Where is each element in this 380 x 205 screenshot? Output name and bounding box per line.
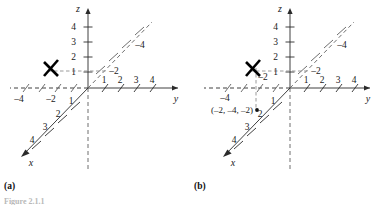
z-axis-arrowhead <box>287 8 292 14</box>
x-axis-arrowhead <box>223 149 232 157</box>
y-tick-label-2: 2 <box>320 75 325 85</box>
y-tick-neg-2 <box>55 84 61 92</box>
x-tick-label-2: 2 <box>258 109 263 119</box>
x-tick-label-1: 1 <box>271 96 276 106</box>
z-tick-label-4: 4 <box>273 22 278 32</box>
x-tick-label-4: 4 <box>30 135 35 145</box>
panel-b-caption: (b) <box>194 181 206 191</box>
z-axis-label: z <box>75 3 80 14</box>
z-tick-label-2: 2 <box>273 52 278 62</box>
y-axis-label: y <box>173 93 179 104</box>
z-tick-label-1: 1 <box>71 67 76 77</box>
x-tick-label-neg-2: –2 <box>310 66 321 76</box>
y-tick-label-neg-2: –2 <box>45 94 56 104</box>
x-tick-neg-1 <box>298 66 307 74</box>
y-tick-label-neg-2: –2 <box>257 72 268 82</box>
z-tick-label-1: 1 <box>273 67 278 77</box>
panel-b-axes-svg: 4 3 2 1 z 1 2 3 4 –2 –4 y 1 2 3 4 –2 –4 … <box>190 0 380 180</box>
y-tick-label-neg-4: –4 <box>219 93 230 103</box>
y-tick-label-2: 2 <box>118 75 123 85</box>
x-tick-neg-2 <box>311 53 320 61</box>
x-tick-neg-3 <box>122 40 131 48</box>
x-tick-neg-1 <box>96 66 105 74</box>
point-coordinate-label: (–2, –4, –2) <box>211 105 253 115</box>
y-tick-label-4: 4 <box>352 75 357 85</box>
figure-2-1-1: 4 3 2 1 z 1 2 3 4 –2 –4 y 1 2 3 4 –2 –4 … <box>0 0 380 205</box>
y-tick-label-3: 3 <box>336 75 341 85</box>
z-axis-arrowhead <box>85 8 90 14</box>
y-axis-label: y <box>365 93 371 104</box>
z-tick-label-4: 4 <box>71 22 76 32</box>
panel-b-coordinate-system: 4 3 2 1 z 1 2 3 4 –2 –4 y 1 2 3 4 –2 –4 … <box>190 0 380 180</box>
y-tick-label-1: 1 <box>304 75 309 85</box>
panel-a-axes-svg: 4 3 2 1 z 1 2 3 4 –2 –4 y 1 2 3 4 –2 –4 … <box>0 0 190 180</box>
x-tick-neg-3 <box>324 40 333 48</box>
x-tick-label-2: 2 <box>56 109 61 119</box>
y-tick-neg-2 <box>257 84 263 92</box>
y-tick-label-3: 3 <box>134 75 139 85</box>
x-tick-label-3: 3 <box>43 122 48 132</box>
x-tick-label-neg-4: –4 <box>134 40 145 50</box>
bold-x-mark <box>44 60 58 76</box>
z-tick-label-3: 3 <box>71 37 76 47</box>
y-axis-arrowhead <box>172 85 178 90</box>
x-tick-label-neg-4: –4 <box>336 40 347 50</box>
x-tick-label-1: 1 <box>69 96 74 106</box>
panel-a-caption: (a) <box>4 181 15 191</box>
panel-a-coordinate-system: 4 3 2 1 z 1 2 3 4 –2 –4 y 1 2 3 4 –2 –4 … <box>0 0 190 180</box>
x-axis-label: x <box>28 157 34 168</box>
z-tick-label-2: 2 <box>71 52 76 62</box>
z-axis-label: z <box>277 3 282 14</box>
y-tick-label-neg-4: –4 <box>13 94 24 104</box>
z-tick-label-3: 3 <box>273 37 278 47</box>
x-axis-arrowhead <box>21 149 30 157</box>
x-tick-label-3: 3 <box>245 122 250 132</box>
y-tick-label-1: 1 <box>102 75 107 85</box>
x-axis-label: x <box>230 157 236 168</box>
figure-caption: Figure 2.1.1 <box>4 197 45 205</box>
x-tick-label-4: 4 <box>232 135 237 145</box>
x-tick-neg-2 <box>109 53 118 61</box>
y-tick-label-4: 4 <box>150 75 155 85</box>
x-tick-label-neg-2: –2 <box>108 66 119 76</box>
y-axis-arrowhead <box>364 85 370 90</box>
